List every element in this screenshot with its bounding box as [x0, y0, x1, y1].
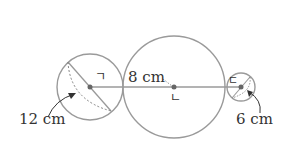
point-c [239, 85, 244, 90]
sphere-diagram: ㄱ ㄴ ㄷ 8 cm 12 cm 6 cm [0, 0, 289, 143]
point-c-label: ㄷ [228, 74, 238, 87]
right-diameter-label: 6 cm [236, 110, 273, 128]
point-a-label: ㄱ [95, 70, 106, 84]
diagram-canvas: ㄱ ㄴ ㄷ 8 cm 12 cm 6 cm [0, 0, 289, 143]
left-diameter-label: 12 cm [19, 110, 65, 128]
point-b-label: ㄴ [170, 91, 181, 105]
point-a [88, 85, 93, 90]
middle-distance-label: 8 cm [128, 68, 165, 86]
point-b [172, 85, 177, 90]
